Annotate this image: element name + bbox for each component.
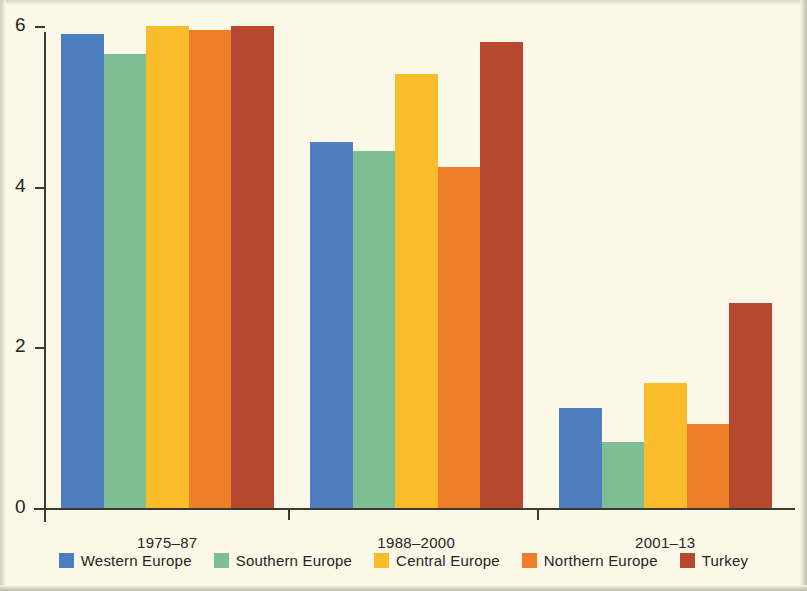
legend-item-western-europe[interactable]: Western Europe [59, 552, 192, 569]
x-axis-line [34, 508, 795, 510]
legend-swatch-icon [59, 553, 74, 568]
legend-item-southern-europe[interactable]: Southern Europe [214, 552, 352, 569]
x-axis-group-label: 1988–2000 [290, 534, 543, 551]
y-axis-line [44, 32, 46, 522]
legend-label: Southern Europe [236, 552, 352, 569]
legend-swatch-icon [214, 553, 229, 568]
x-axis-separator-tick [288, 509, 290, 520]
plot-area: 0246 1975–871988–20002001–13 [44, 26, 795, 508]
bar-western-europe-1975-87 [61, 34, 104, 508]
bar-northern-europe-1988-2000 [438, 167, 481, 508]
bar-northern-europe-1975-87 [189, 30, 232, 508]
scan-edge-bottom [0, 585, 807, 591]
chart-figure: 0246 1975–871988–20002001–13 Western Eur… [0, 0, 807, 591]
legend-swatch-icon [374, 553, 389, 568]
legend-swatch-icon [522, 553, 537, 568]
bar-turkey-1988-2000 [480, 42, 523, 508]
y-axis-tick-label: 4 [15, 176, 26, 196]
y-axis-tick-label: 0 [15, 497, 26, 517]
legend-swatch-icon [680, 553, 695, 568]
bar-western-europe-1988-2000 [310, 142, 353, 508]
legend-label: Central Europe [396, 552, 500, 569]
scan-edge-right [800, 0, 807, 591]
y-axis-tick: 2 [35, 347, 45, 349]
bar-western-europe-2001-13 [559, 408, 602, 508]
x-axis-group-label: 1975–87 [41, 534, 294, 551]
y-axis-tick-label: 2 [15, 336, 26, 356]
y-axis-tick-label: 6 [15, 15, 26, 35]
bar-northern-europe-2001-13 [687, 424, 730, 508]
legend-item-central-europe[interactable]: Central Europe [374, 552, 500, 569]
scan-edge-top [0, 0, 807, 5]
bar-southern-europe-1988-2000 [353, 151, 396, 508]
legend-label: Turkey [702, 552, 749, 569]
bar-central-europe-1975-87 [146, 26, 189, 508]
y-axis-tick: 0 [35, 508, 45, 510]
bar-turkey-2001-13 [729, 303, 772, 508]
chart-legend: Western EuropeSouthern EuropeCentral Eur… [0, 552, 807, 569]
y-axis-tick: 6 [35, 26, 45, 28]
bar-turkey-1975-87 [231, 26, 274, 508]
legend-label: Western Europe [81, 552, 192, 569]
bar-central-europe-1988-2000 [395, 74, 438, 508]
x-axis-group-label: 2001–13 [539, 534, 792, 551]
bar-southern-europe-1975-87 [104, 54, 147, 508]
x-axis-separator-tick [537, 509, 539, 520]
bar-central-europe-2001-13 [644, 383, 687, 508]
legend-label: Northern Europe [544, 552, 658, 569]
scan-edge-left [0, 0, 6, 591]
y-axis-tick: 4 [35, 187, 45, 189]
legend-item-turkey[interactable]: Turkey [680, 552, 749, 569]
bar-southern-europe-2001-13 [602, 442, 645, 508]
legend-item-northern-europe[interactable]: Northern Europe [522, 552, 658, 569]
